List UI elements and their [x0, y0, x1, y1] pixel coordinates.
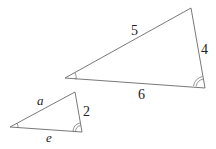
large-label-base: 6 — [138, 87, 145, 102]
large-triangle: 5 4 6 — [65, 8, 208, 102]
small-triangle: a 2 e — [10, 92, 90, 145]
small-triangle-outline — [10, 92, 82, 132]
large-label-right-side: 4 — [201, 42, 208, 57]
small-label-hypotenuse: a — [37, 93, 44, 108]
large-right-angle-arc-inner — [196, 79, 203, 86]
small-right-angle-arc-inner — [76, 126, 81, 132]
small-label-right-side: 2 — [83, 104, 90, 119]
large-label-hypotenuse: 5 — [131, 23, 138, 38]
small-right-angle-arc-outer — [73, 123, 80, 132]
large-triangle-outline — [65, 8, 205, 88]
small-left-angle-arc — [17, 123, 18, 127]
large-right-angle-arc-outer — [194, 77, 203, 87]
similar-triangles-diagram: 5 4 6 a 2 e — [0, 0, 216, 149]
small-label-base: e — [46, 130, 52, 145]
